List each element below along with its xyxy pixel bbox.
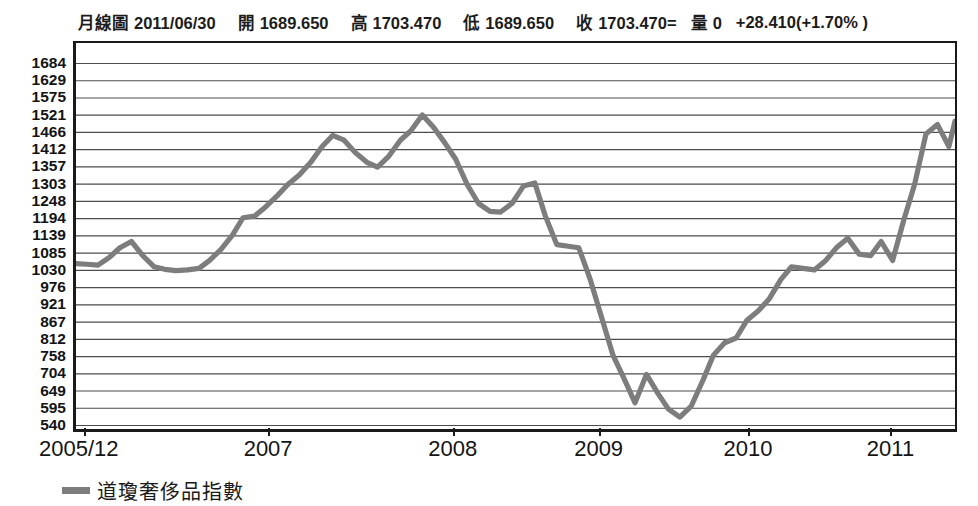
y-axis-tick-label: 976 [40,279,66,295]
y-axis-tick-label: 1575 [32,90,66,106]
chart-type-group: 月線圖 2011/06/30 [78,10,216,34]
y-axis-tick-label: 1357 [32,159,66,175]
y-axis-tick-label: 1684 [32,55,66,71]
close-value: 1703.470= [598,14,676,33]
y-axis-tick-label: 595 [40,400,66,416]
y-axis-tick-label: 1466 [32,124,66,140]
y-axis-tick-label: 540 [40,417,66,433]
y-axis-tick-label: 1194 [32,210,66,226]
x-axis-tick-label: 2009 [574,436,623,462]
x-axis-tick-mark [84,428,86,436]
x-axis-tick-label: 2011 [867,436,914,462]
x-axis-tick-label: 2010 [724,436,773,462]
close-group: 收 1703.470= [576,10,676,34]
x-axis-tick-label: 2008 [428,436,477,462]
plot-area [73,41,957,432]
y-axis-tick-label: 812 [40,331,66,347]
x-axis-tick-mark [890,428,892,436]
volume-value: 0 [713,14,722,33]
legend-color-swatch [62,487,90,494]
y-axis: 1684162915751521146614121357130312481194… [0,41,71,432]
x-axis-tick-mark [268,428,270,436]
legend-series-label: 道瓊奢侈品指數 [97,476,244,505]
y-axis-tick-label: 921 [40,297,66,313]
low-label: 低 [463,10,480,34]
y-axis-tick-label: 867 [40,314,66,330]
x-axis-tick-mark [748,428,750,436]
chart-page: 月線圖 2011/06/30 開 1689.650 高 1703.470 低 1… [0,0,978,506]
y-axis-tick-label: 1412 [32,141,66,157]
quote-header-bar: 月線圖 2011/06/30 開 1689.650 高 1703.470 低 1… [78,8,968,36]
y-axis-tick-label: 649 [40,383,66,399]
y-axis-tick-label: 758 [40,348,66,364]
y-axis-tick-label: 1248 [32,193,66,209]
chart-legend: 道瓊奢侈品指數 [62,478,244,502]
high-group: 高 1703.470 [351,10,442,34]
low-group: 低 1689.650 [463,10,554,34]
change-value: +28.410(+1.70% ) [736,13,868,32]
high-value: 1703.470 [373,14,442,33]
high-label: 高 [351,10,368,34]
y-axis-tick-label: 704 [40,366,66,382]
quote-date: 2011/06/30 [134,14,216,33]
y-axis-tick-label: 1139 [32,228,66,244]
x-axis-tick-mark [599,428,601,436]
x-axis-tick-label: 2005/12 [39,436,119,462]
series-line-chart [76,43,955,429]
open-group: 開 1689.650 [238,10,329,34]
low-value: 1689.650 [485,14,554,33]
volume-group: 量 0 [691,10,722,34]
x-axis-tick-label: 2007 [244,436,293,462]
volume-label: 量 [691,10,708,34]
open-label: 開 [238,10,255,34]
x-axis-tick-mark [453,428,455,436]
chart-type-label: 月線圖 [78,10,129,34]
close-label: 收 [576,10,593,34]
y-axis-tick-label: 1521 [32,107,66,123]
y-axis-tick-label: 1629 [32,72,66,88]
y-axis-tick-label: 1085 [32,245,66,261]
y-axis-tick-label: 1030 [32,262,66,278]
y-axis-tick-label: 1303 [32,176,66,192]
open-value: 1689.650 [260,14,329,33]
x-axis: 2005/1220072008200920102011 [0,436,978,470]
